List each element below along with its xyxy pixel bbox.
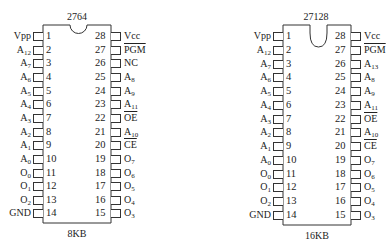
- pin-lead: [273, 32, 283, 41]
- pin-label: A10: [364, 126, 378, 141]
- pin-9: A19: [231, 140, 301, 152]
- pin-signal-name: A: [260, 126, 267, 137]
- pin-number: 5: [286, 85, 291, 97]
- pin-signal-name: A: [260, 113, 267, 124]
- pin-label: A2: [231, 126, 271, 141]
- pin-label: O1: [231, 181, 271, 196]
- pin-lead: [351, 73, 361, 82]
- pin-label: A8: [364, 71, 375, 86]
- pin-lead: [351, 60, 361, 69]
- pin-label: A6: [231, 71, 271, 86]
- pin-label: Vcc: [364, 30, 380, 45]
- pin-label: A4: [231, 99, 271, 114]
- pin-4: A64: [231, 71, 301, 83]
- pin-number: 25: [335, 71, 346, 83]
- pin-lead: [273, 73, 283, 82]
- pin-signal-subscript: 5: [268, 90, 272, 98]
- pin-label: O0: [231, 168, 271, 183]
- pin-signal-subscript: 1: [268, 186, 272, 194]
- pin-label: OE: [364, 113, 377, 128]
- pin-signal-name: O: [260, 195, 267, 206]
- pin-17: 17O5: [333, 181, 391, 193]
- pin-lead: [351, 197, 361, 206]
- pin-20: 20CE: [333, 140, 391, 152]
- pin-label: A7: [231, 58, 271, 73]
- pin-number: 3: [286, 58, 291, 70]
- pin-lead: [351, 142, 361, 151]
- pin-lead: [351, 115, 361, 124]
- pin-number: 24: [335, 85, 346, 97]
- pin-1: Vpp1: [231, 30, 301, 42]
- pin-label: O3: [364, 209, 375, 224]
- pin-lead: [273, 170, 283, 179]
- pin-label: Vpp: [231, 30, 271, 45]
- pin-lead: [351, 211, 361, 220]
- pin-number: 20: [335, 140, 346, 152]
- pin-label: A0: [231, 154, 271, 169]
- pin-signal-name: A: [257, 44, 264, 55]
- pin-6: A46: [231, 99, 301, 111]
- pin-lead: [351, 183, 361, 192]
- pin-signal-subscript: 4: [268, 104, 272, 112]
- pin-19: 19O7: [333, 154, 391, 166]
- pin-signal-subscript: 10: [371, 131, 378, 139]
- pin-label: A5: [231, 85, 271, 100]
- pin-2: A122: [231, 44, 301, 56]
- pin-number: 11: [286, 168, 296, 180]
- pin-signal-name: A: [260, 140, 267, 151]
- pin-lead: [351, 87, 361, 96]
- pin-signal-subscript: 5: [371, 186, 375, 194]
- pin-number: 8: [286, 126, 291, 138]
- pin-label: GND: [231, 209, 271, 224]
- pin-14: GND14: [231, 209, 301, 221]
- pin-signal-subscript: 7: [268, 63, 272, 71]
- pin-label: O5: [364, 181, 375, 196]
- pin-lead: [351, 101, 361, 110]
- pin-label: A3: [231, 113, 271, 128]
- pin-number: 10: [286, 154, 297, 166]
- pin-number: 6: [286, 99, 291, 111]
- pin-12: O112: [231, 181, 301, 193]
- pin-label: O6: [364, 168, 375, 183]
- pin-signal-subscript: 4: [371, 200, 375, 208]
- pin-label: A12: [231, 44, 271, 59]
- pin-lead: [273, 115, 283, 124]
- pin-signal-subscript: 8: [371, 76, 375, 84]
- pin-signal-subscript: 1: [268, 145, 272, 153]
- pin-signal-subscript: 7: [371, 159, 375, 167]
- pin-16: 16O4: [333, 195, 391, 207]
- pin-number: 27: [335, 44, 346, 56]
- pin-number: 28: [335, 30, 346, 42]
- pin-label: A11: [364, 99, 378, 114]
- pin-signal-name: Vpp: [254, 30, 271, 41]
- pin-label: A1: [231, 140, 271, 155]
- pin-signal-name: A: [260, 154, 267, 165]
- pin-lead: [273, 128, 283, 137]
- pin-lead: [351, 46, 361, 55]
- pin-number: 21: [335, 126, 346, 138]
- pin-signal-name: GND: [249, 209, 271, 220]
- pin-signal-name: A: [260, 58, 267, 69]
- pin-7: A37: [231, 113, 301, 125]
- pin-5: A55: [231, 85, 301, 97]
- chip-27128: 27128 Vpp1A122A73A64A55A46A37A28A19A010O…: [0, 0, 391, 250]
- pin-lead: [273, 156, 283, 165]
- pin-lead: [351, 156, 361, 165]
- pin-11: O011: [231, 168, 301, 180]
- pin-label: A9: [364, 85, 375, 100]
- pin-number: 14: [286, 209, 297, 221]
- pin-13: O213: [231, 195, 301, 207]
- pin-3: A73: [231, 58, 301, 70]
- pin-signal-name: A: [260, 85, 267, 96]
- pin-lead: [273, 87, 283, 96]
- pin-10: A010: [231, 154, 301, 166]
- pin-lead: [351, 128, 361, 137]
- pin-signal-name: OE: [364, 113, 377, 124]
- pin-number: 22: [335, 113, 346, 125]
- pin-24: 24A9: [333, 85, 391, 97]
- pin-number: 15: [335, 209, 346, 221]
- pin-number: 23: [335, 99, 346, 111]
- pin-signal-name: O: [260, 168, 267, 179]
- pin-signal-subscript: 9: [371, 90, 375, 98]
- pin-number: 4: [286, 71, 291, 83]
